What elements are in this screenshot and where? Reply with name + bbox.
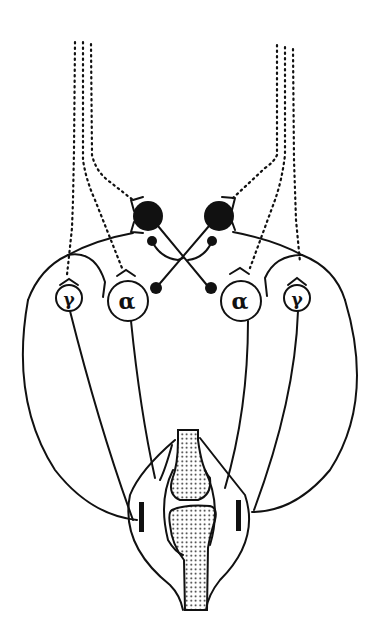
- alpha-motor-neuron-left: α: [108, 270, 148, 321]
- neural-circuit-diagram: γ γ α α: [0, 0, 382, 642]
- gamma-label-right: γ: [291, 289, 303, 309]
- gamma-motor-neuron-right: γ: [284, 278, 310, 311]
- descending-tracts-left: [67, 42, 133, 275]
- gamma-label-left: γ: [63, 289, 75, 309]
- alpha-label-left: α: [119, 288, 136, 314]
- joint-bones: [164, 430, 216, 610]
- alpha-label-right: α: [232, 288, 249, 314]
- crossed-inhibitory-axons: [147, 226, 217, 294]
- gamma-motor-neuron-left: γ: [56, 279, 82, 311]
- alpha-motor-neuron-right: α: [221, 268, 261, 321]
